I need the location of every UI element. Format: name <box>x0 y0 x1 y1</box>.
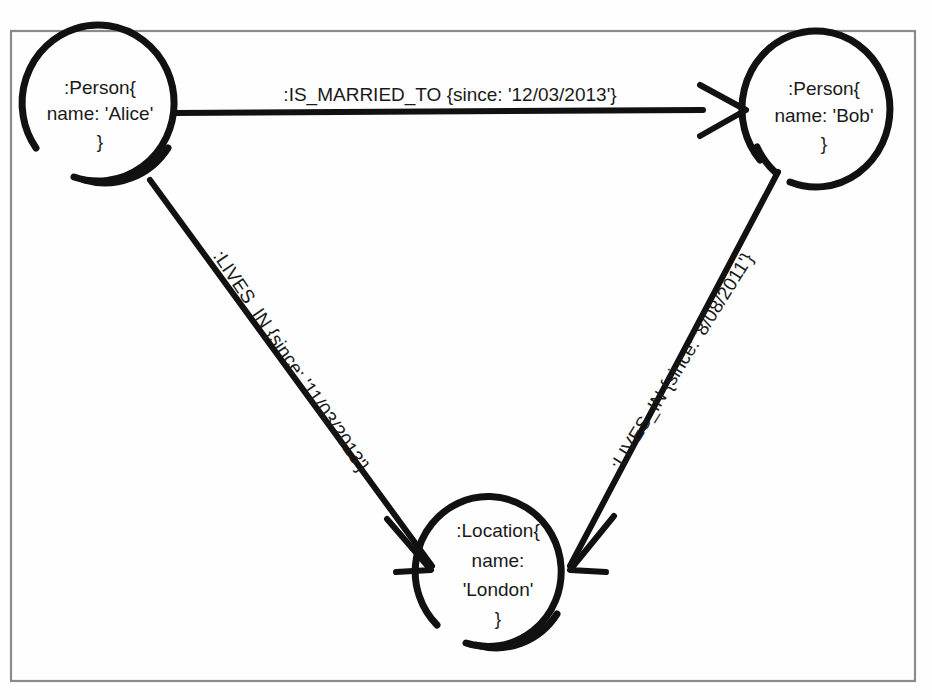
edge-is-married-to-label: :IS_MARRIED_TO {since: '12/03/2013'} <box>283 84 616 106</box>
node-person-bob-line-3: } <box>821 133 827 154</box>
edge-bob-lives-in-london[interactable]: :LIVES_IN {since: '8/08/2011'} <box>570 172 778 572</box>
node-location-london-line-1: :Location{ <box>456 520 540 541</box>
node-person-bob-line-2: name: 'Bob' <box>774 105 873 126</box>
node-person-bob[interactable]: :Person{ name: 'Bob' } <box>742 31 890 187</box>
edge-bob-lives-in-label: :LIVES_IN {since: '8/08/2011'} <box>606 249 758 474</box>
edge-is-married-to-line <box>174 110 703 113</box>
node-location-london-line-2: name: <box>472 550 525 571</box>
node-location-london-line-4: } <box>495 608 501 629</box>
node-person-alice-line-3: } <box>97 131 103 152</box>
edge-alice-lives-in-arrowhead <box>387 519 431 572</box>
node-location-london-line-3: 'London' <box>463 579 534 600</box>
edge-alice-lives-in-london[interactable]: :LIVES_IN {since: '11/03/2013'} <box>150 180 432 572</box>
node-person-bob-line-1: :Person{ <box>788 78 860 99</box>
node-person-alice-line-1: :Person{ <box>64 77 136 98</box>
diagram-canvas: :IS_MARRIED_TO {since: '12/03/2013'} :LI… <box>0 0 932 700</box>
graph-diagram: :IS_MARRIED_TO {since: '12/03/2013'} :LI… <box>0 0 932 700</box>
node-person-alice-line-2: name: 'Alice' <box>47 103 154 124</box>
edge-is-married-to[interactable]: :IS_MARRIED_TO {since: '12/03/2013'} <box>174 84 746 136</box>
edge-alice-lives-in-label: :LIVES_IN {since: '11/03/2013'} <box>208 246 373 476</box>
node-person-alice[interactable]: :Person{ name: 'Alice' } <box>22 25 174 183</box>
node-location-london[interactable]: :Location{ name: 'London' } <box>415 497 561 648</box>
